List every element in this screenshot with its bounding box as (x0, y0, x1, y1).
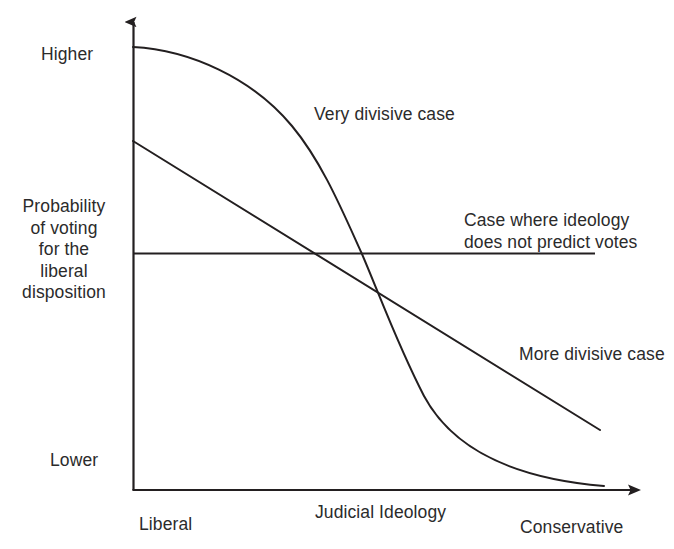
x-axis-right-label: Conservative (520, 517, 623, 538)
y-axis-high-label: Higher (41, 44, 93, 65)
curve-more-divisive-case (133, 141, 600, 430)
annotation-more-divisive-case: More divisive case (519, 344, 665, 365)
chart-figure: Higher Lower Probability of voting for t… (0, 0, 674, 549)
annotation-no-prediction-case: Case where ideology does not predict vot… (464, 210, 637, 253)
x-axis-title: Judicial Ideology (315, 502, 446, 523)
y-axis-low-label: Lower (50, 450, 98, 471)
y-axis-title: Probability of voting for the liberal di… (0, 196, 128, 304)
x-axis-left-label: Liberal (139, 514, 192, 535)
annotation-very-divisive-case: Very divisive case (314, 104, 455, 125)
